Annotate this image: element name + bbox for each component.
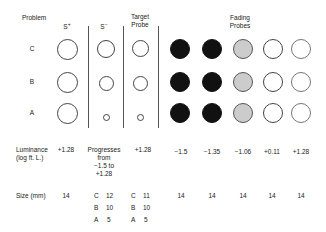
header-problem: Problem xyxy=(22,14,46,22)
luminance-fading-2: −1.35 xyxy=(204,148,220,156)
luminance-target: +1.28 xyxy=(135,146,151,154)
size-s-minus-a-row: A xyxy=(94,216,98,224)
row-label-a: A xyxy=(30,109,34,117)
stimulus-s-minus-b xyxy=(99,76,114,91)
s-plus-sup: + xyxy=(68,21,71,27)
size-s-plus: 14 xyxy=(62,192,69,200)
size-target-b-value: 10 xyxy=(143,204,150,212)
fading-probe-1-a xyxy=(170,103,190,123)
size-s-minus-b-row: B xyxy=(94,204,98,212)
fading-probe-2-a xyxy=(202,103,222,123)
fading-probe-4-b xyxy=(263,72,283,92)
fading-probe-2-b xyxy=(202,72,222,92)
row-label-c: C xyxy=(30,45,35,53)
stimulus-target-b xyxy=(133,76,148,91)
header-target-line2: Probe xyxy=(131,21,148,29)
divider-3 xyxy=(158,26,159,128)
stimulus-target-c xyxy=(132,40,149,57)
fading-probe-3-a xyxy=(233,103,253,123)
fading-probe-5-c xyxy=(291,39,311,59)
fading-probe-5-b xyxy=(291,72,311,92)
header-target-line1: Target xyxy=(131,13,149,21)
fading-probe-1-c xyxy=(170,39,190,59)
fading-probe-2-c xyxy=(202,39,222,59)
size-target-c-value: 11 xyxy=(143,192,150,200)
size-fading-3: 14 xyxy=(239,192,246,200)
divider-2 xyxy=(123,26,124,128)
size-s-minus-b-value: 10 xyxy=(106,204,113,212)
s-minus-sup: − xyxy=(105,21,108,27)
stimulus-s-minus-c xyxy=(97,40,115,58)
luminance-label-line1: Luminance xyxy=(16,146,48,154)
size-target-b-row: B xyxy=(131,204,135,212)
size-s-minus-a-value: 5 xyxy=(107,216,111,224)
header-s-minus: S− xyxy=(100,20,107,31)
size-s-minus-c-row: C xyxy=(94,192,99,200)
fading-probe-1-b xyxy=(170,72,190,92)
luminance-fading-1: −1.5 xyxy=(175,148,188,156)
size-fading-5: 14 xyxy=(297,192,304,200)
luminance-s-plus: +1.28 xyxy=(58,146,74,154)
stimulus-target-a xyxy=(137,114,144,121)
stimulus-s-plus-b xyxy=(57,72,78,93)
fading-probe-4-a xyxy=(263,103,283,123)
header-fading-line1: Fading xyxy=(230,14,250,22)
luminance-s-minus-line1: Progresses xyxy=(88,146,121,154)
size-fading-4: 14 xyxy=(268,192,275,200)
size-target-c-row: C xyxy=(131,192,136,200)
size-target-a-row: A xyxy=(131,216,135,224)
fading-probe-5-a xyxy=(291,103,311,123)
fading-probe-3-b xyxy=(233,72,253,92)
stimulus-s-minus-a xyxy=(103,114,110,121)
header-s-plus: S+ xyxy=(63,20,70,31)
luminance-fading-3: −1.06 xyxy=(235,148,251,156)
size-target-a-value: 5 xyxy=(144,216,148,224)
luminance-label-line2: (log ft. L.) xyxy=(16,154,43,162)
row-label-b: B xyxy=(30,78,34,86)
fading-probe-3-c xyxy=(233,39,253,59)
stimulus-s-plus-a xyxy=(57,103,78,124)
size-label: Size (mm) xyxy=(16,192,46,200)
luminance-s-minus-line2: from xyxy=(98,154,111,162)
size-s-minus-c-value: 12 xyxy=(106,192,113,200)
luminance-s-minus-line4: +1.28 xyxy=(96,170,112,178)
size-fading-1: 14 xyxy=(177,192,184,200)
fading-probe-4-c xyxy=(263,39,283,59)
luminance-fading-4: +0.11 xyxy=(264,148,280,156)
size-fading-2: 14 xyxy=(208,192,215,200)
header-fading-line2: Probes xyxy=(230,22,251,30)
stimulus-s-plus-c xyxy=(57,39,78,60)
divider-1 xyxy=(88,26,89,128)
luminance-s-minus-line3: −1.5 to xyxy=(94,162,114,170)
luminance-fading-5: +1.28 xyxy=(293,148,309,156)
